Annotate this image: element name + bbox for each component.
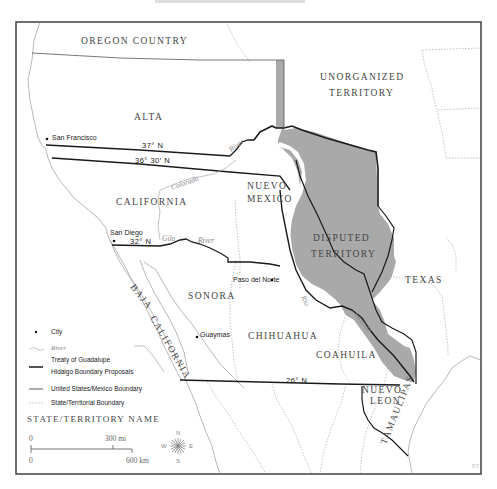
label-gila-river: River [197, 236, 214, 245]
legend-us-mexico-label: United States/Mexico Boundary [51, 385, 143, 393]
label-unorganized-2: TERRITORY [329, 88, 394, 98]
compass-w: W [161, 443, 167, 449]
legend-river-label: River [50, 344, 66, 352]
label-coahuila: COAHUILA [316, 350, 377, 360]
city-dot-guaymas [196, 336, 199, 339]
label-lat-36-30: 36° 30′ N [135, 156, 170, 165]
map-canvas: OREGON COUNTRY UNORGANIZED TERRITORY ALT… [0, 0, 497, 489]
map-frame [16, 22, 481, 474]
label-unorganized-1: UNORGANIZED [320, 72, 405, 82]
label-gila: Gila [162, 234, 176, 243]
label-sonora: SONORA [188, 291, 235, 301]
label-oregon-country: OREGON COUNTRY [81, 36, 188, 46]
title-remnant [155, 0, 305, 3]
compass-n: N [176, 430, 180, 436]
label-paso-del-norte: Paso del Norte [233, 276, 279, 283]
scale-km: 600 km [126, 456, 149, 465]
label-disputed-2: TERRITORY [311, 249, 376, 259]
compass-s: S [176, 458, 180, 464]
map-credit: ET [472, 463, 480, 469]
legend-state-name-label: STATE/TERRITORY NAME [27, 414, 160, 424]
label-disputed-1: DISPUTED [313, 233, 370, 243]
label-texas: TEXAS [405, 275, 443, 285]
scale-zero-top: 0 [29, 434, 33, 443]
scale-zero-bottom: 0 [29, 456, 33, 465]
compass-e: E [189, 443, 193, 449]
label-nuevo-mexico-1: NUEVO [247, 181, 287, 191]
legend-state-boundary-label: State/Territorial Boundary [51, 399, 125, 407]
label-lat-37: 37° N [142, 141, 163, 150]
scale-miles: 300 mi [105, 434, 126, 443]
legend-treaty-label-1: Treaty of Guadalupe [51, 356, 110, 364]
label-nuevo-mexico-2: MEXICO [247, 194, 293, 204]
label-california: CALIFORNIA [116, 197, 188, 207]
city-dot-san-diego [113, 240, 116, 243]
label-san-francisco: San Francisco [52, 134, 97, 141]
legend-city-icon [35, 331, 37, 333]
label-lat-32: 32° N [130, 237, 151, 246]
legend-treaty-label-2: Hidalgo Boundary Proposals [51, 368, 134, 376]
label-guaymas: Guaymas [200, 331, 230, 339]
city-dot-san-francisco [46, 138, 49, 141]
label-alta: ALTA [134, 112, 163, 122]
label-san-diego: San Diego [110, 229, 143, 237]
label-lat-26: 26° N [286, 376, 307, 385]
label-nuevo-leon-1: NUEVO [362, 385, 402, 395]
label-chihuahua: CHIHUAHUA [248, 331, 318, 341]
legend-city-label: City [51, 328, 63, 336]
